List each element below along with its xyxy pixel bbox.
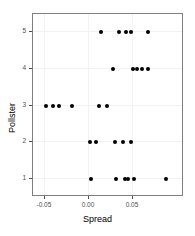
data-point [70,104,74,108]
y-axis-tick-label: 4 [12,65,26,72]
data-point [140,67,144,71]
data-point [126,177,130,181]
data-point [146,67,150,71]
gridline-horizontal [33,31,182,32]
data-point [89,177,93,181]
x-axis-tick [88,196,89,199]
y-axis-tick-label: 3 [12,101,26,108]
gridline-horizontal [33,68,182,69]
data-point [164,177,168,181]
data-point [105,104,109,108]
scatter-plot-figure: Pollster Spread -0.050.000.0512345 [0,0,195,236]
plot-panel [32,13,183,196]
data-point [124,30,128,34]
data-point [132,177,136,181]
data-point [111,67,115,71]
data-point [99,30,103,34]
x-axis-tick-label: 0.05 [126,202,139,209]
x-axis-tick [44,196,45,199]
y-axis-tick [29,105,32,106]
data-point [94,140,98,144]
gridline-horizontal [33,178,182,179]
data-point [146,30,150,34]
gridline-vertical [88,14,89,195]
gridline-vertical [132,14,133,195]
y-axis-tick [29,68,32,69]
x-axis-label: Spread [0,214,195,224]
y-axis-tick [29,178,32,179]
y-axis-tick-label: 5 [12,28,26,35]
gridline-horizontal [33,141,182,142]
data-point [113,140,117,144]
data-point [51,104,55,108]
data-point [117,30,121,34]
data-point [135,67,139,71]
y-axis-tick-label: 1 [12,174,26,181]
data-point [44,104,48,108]
x-axis-tick [132,196,133,199]
data-point [129,140,133,144]
y-axis-tick [29,31,32,32]
x-axis-tick-label: 0.00 [82,202,95,209]
data-point [57,104,61,108]
x-axis-tick-label: -0.05 [37,202,52,209]
y-axis-tick-label: 2 [12,138,26,145]
data-point [88,140,92,144]
data-point [121,140,125,144]
data-point [114,177,118,181]
data-point [97,104,101,108]
y-axis-tick [29,141,32,142]
